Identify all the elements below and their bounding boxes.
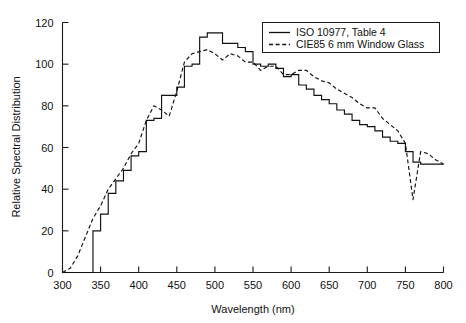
y-axis-tick-labels: 020406080100120 <box>35 17 53 279</box>
y-tick-label-120: 120 <box>35 17 53 29</box>
x-tick-label-650: 650 <box>320 279 338 291</box>
legend-label-0: ISO 10977, Table 4 <box>296 26 386 38</box>
y-tick-label-40: 40 <box>41 183 53 195</box>
x-axis-tick-labels: 300350400450500550600650700750800 <box>53 279 452 291</box>
legend: ISO 10977, Table 4 CIE85 6 mm Window Gla… <box>263 23 440 53</box>
spectral-distribution-chart: 300350400450500550600650700750800 020406… <box>0 0 466 323</box>
x-tick-label-750: 750 <box>396 279 414 291</box>
data-series-group <box>63 33 444 273</box>
y-tick-label-80: 80 <box>41 100 53 112</box>
x-axis-ticks <box>63 267 444 273</box>
x-tick-label-450: 450 <box>168 279 186 291</box>
x-tick-label-500: 500 <box>206 279 224 291</box>
y-tick-label-0: 0 <box>47 267 53 279</box>
y-axis-ticks <box>63 23 69 273</box>
series-cie85-6mm-window-glass <box>63 50 444 273</box>
x-tick-label-400: 400 <box>130 279 148 291</box>
series-iso-10977-table-4 <box>63 33 444 273</box>
x-tick-label-800: 800 <box>434 279 452 291</box>
x-tick-label-350: 350 <box>91 279 109 291</box>
y-tick-label-20: 20 <box>41 225 53 237</box>
x-tick-label-600: 600 <box>282 279 300 291</box>
y-tick-label-100: 100 <box>35 58 53 70</box>
x-axis-title: Wavelength (nm) <box>211 303 294 315</box>
x-tick-label-550: 550 <box>244 279 262 291</box>
y-axis-title: Relative Spectral Distribution <box>10 76 22 217</box>
chart-svg: 300350400450500550600650700750800 020406… <box>0 0 466 323</box>
legend-label-1: CIE85 6 mm Window Glass <box>296 38 424 50</box>
x-tick-label-700: 700 <box>358 279 376 291</box>
x-tick-label-300: 300 <box>53 279 71 291</box>
y-tick-label-60: 60 <box>41 142 53 154</box>
